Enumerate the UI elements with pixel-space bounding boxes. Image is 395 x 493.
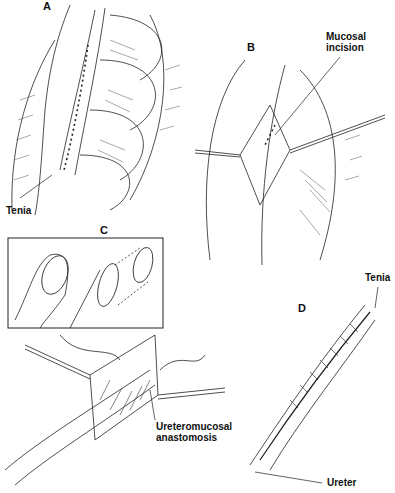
panel-c-letter: C — [100, 224, 108, 236]
ureter-label: Ureter — [327, 477, 356, 488]
panel-d-drawing — [250, 287, 378, 483]
anastomosis-line1: Ureteromucosal — [156, 421, 232, 432]
mucosal-incision-label: Mucosal incision — [326, 31, 366, 53]
ureteromucosal-anastomosis-label: Ureteromucosal anastomosis — [156, 421, 232, 443]
panel-a-drawing — [12, 5, 182, 215]
panel-c-drawing — [8, 238, 163, 328]
panel-b-drawing — [195, 57, 385, 265]
mucosal-incision-line2: incision — [326, 42, 366, 53]
tenia-label-d: Tenia — [365, 272, 390, 283]
panel-b-letter: B — [247, 41, 255, 53]
mucosal-incision-line1: Mucosal — [326, 31, 366, 42]
panel-e-drawing — [5, 335, 225, 485]
panel-d-letter: D — [298, 302, 306, 314]
panel-a-letter: A — [43, 0, 51, 12]
tenia-label-a: Tenia — [6, 205, 31, 216]
surgical-illustration — [0, 0, 395, 493]
anastomosis-line2: anastomosis — [156, 432, 232, 443]
